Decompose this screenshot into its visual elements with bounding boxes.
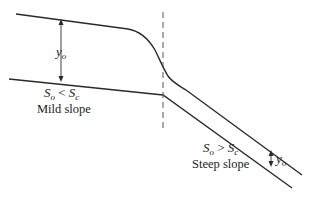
mild-slope-label: Mild slope bbox=[37, 103, 91, 116]
depth-label-mild: yo bbox=[56, 45, 66, 61]
steep-slope-label: Steep slope bbox=[192, 158, 249, 171]
steep-slope-condition: So > Sc bbox=[203, 141, 238, 157]
diagram-canvas: yo So < Sc Mild slope So > Sc Steep slop… bbox=[0, 0, 315, 199]
mild-slope-condition: So < Sc bbox=[44, 86, 79, 102]
depth-label-steep: yo bbox=[276, 152, 286, 168]
